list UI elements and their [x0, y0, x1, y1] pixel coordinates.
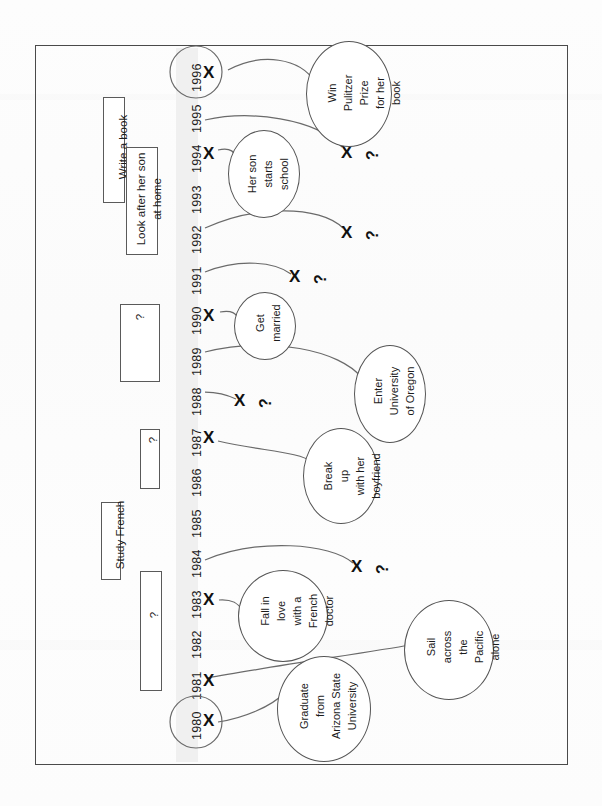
event-label-graduate: Graduate from Arizona State University — [297, 658, 361, 754]
event-label-breakup: Break up with her boyfriend — [321, 436, 385, 516]
unknown-question-mark-1: ? — [365, 150, 381, 160]
unknown-x-marker-2[interactable]: X — [341, 224, 352, 241]
period-label-unknown-b: ? — [146, 410, 162, 470]
event-label-university: Enter University of Oregon — [371, 348, 419, 434]
unknown-x-marker-3[interactable]: X — [289, 268, 300, 285]
unknown-x-marker-5[interactable]: X — [351, 558, 362, 575]
unknown-x-marker-4[interactable]: X — [234, 392, 245, 409]
unknown-question-mark-2: ? — [365, 230, 381, 240]
unknown-question-mark-5: ? — [375, 564, 391, 574]
unknown-question-mark-3: ? — [313, 274, 329, 284]
period-label-unknown-a: ? — [133, 282, 149, 352]
event-label-pulitzer: Win Pulitzer Prize for her book — [325, 48, 405, 138]
event-label-son-school: Her son starts school — [245, 137, 293, 211]
period-label-study-french: Study French — [113, 495, 129, 575]
period-label-look-after-son: Look after her son at home — [134, 149, 165, 249]
event-label-sail: Sail across the Pacific alone — [424, 602, 504, 692]
event-label-married: Get married — [253, 293, 285, 353]
event-label-fall-in-love: Fall in love with a French doctor — [258, 568, 338, 654]
unknown-question-mark-4: ? — [258, 398, 274, 408]
period-label-unknown-c: ? — [147, 585, 163, 645]
